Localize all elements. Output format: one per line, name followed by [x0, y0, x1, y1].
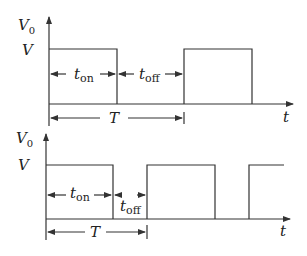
top-labels: V0 V ton toff T t: [18, 16, 290, 127]
waveform-figure: V0 V ton toff T t V0 V ton toff T t: [0, 0, 307, 256]
bottom-pulse-2: [147, 165, 215, 219]
top-x-axis-label: t: [283, 108, 290, 126]
bottom-plot: [46, 134, 290, 240]
bottom-pulse-3: [249, 165, 284, 219]
top-pulse-2: [184, 49, 252, 104]
bottom-labels: V0 V ton toff T t: [16, 129, 287, 241]
top-y-axis-label: V0: [18, 16, 35, 36]
bottom-period-label: T: [90, 223, 101, 241]
pwm-diagram: V0 V ton toff T t V0 V ton toff T t: [0, 0, 307, 256]
bottom-x-axis-label: t: [280, 222, 287, 240]
top-period-label: T: [109, 109, 120, 127]
bottom-ton-label: ton: [70, 184, 90, 204]
bottom-level-label: V: [18, 156, 31, 174]
bottom-toff-label: toff: [120, 197, 142, 217]
bottom-y-axis-label: V0: [16, 129, 33, 149]
top-ton-label: ton: [74, 65, 94, 85]
top-level-label: V: [22, 41, 35, 59]
top-toff-label: toff: [139, 65, 161, 85]
